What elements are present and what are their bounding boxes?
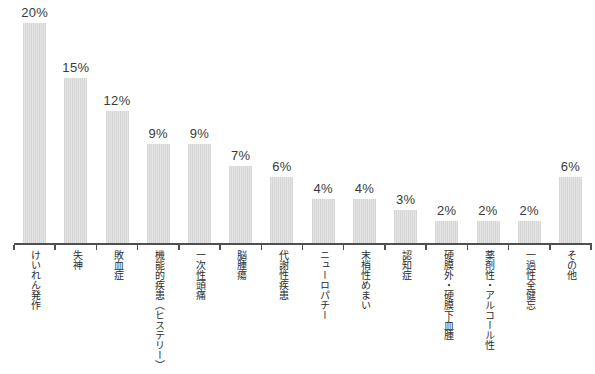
category-cell: 一次性頭痛 bbox=[179, 250, 220, 370]
category-label: その他 bbox=[565, 250, 576, 370]
category-cell: 失神 bbox=[55, 250, 96, 370]
bar-chart: 20%15%12%9%9%7%6%4%4%3%2%2%2%6% けいれん発作失神… bbox=[0, 0, 595, 374]
axis-tick bbox=[137, 245, 139, 250]
axis-tick bbox=[13, 245, 15, 250]
bar-value-label: 6% bbox=[561, 159, 580, 174]
bar bbox=[188, 144, 211, 243]
bar-cell: 3% bbox=[385, 0, 426, 243]
axis-tick bbox=[384, 245, 386, 250]
axis-tick bbox=[96, 245, 98, 250]
bar-value-label: 2% bbox=[520, 203, 539, 218]
bar-value-label: 15% bbox=[62, 60, 89, 75]
category-label: けいれん発作 bbox=[29, 250, 40, 370]
category-label: 脳腫瘍 bbox=[235, 250, 246, 370]
bar-cell: 20% bbox=[14, 0, 55, 243]
category-cell: 脳腫瘍 bbox=[220, 250, 261, 370]
bar-value-label: 7% bbox=[231, 148, 250, 163]
bar-cell: 6% bbox=[261, 0, 302, 243]
bar bbox=[229, 166, 252, 243]
category-label: 硬膜外・硬膜下血腫 bbox=[442, 250, 453, 370]
axis-tick bbox=[219, 245, 221, 250]
bar-value-label: 4% bbox=[313, 181, 332, 196]
category-cell: 認知症 bbox=[385, 250, 426, 370]
bar-value-label: 9% bbox=[190, 126, 209, 141]
bar bbox=[106, 111, 129, 243]
category-cell: 敗血症 bbox=[96, 250, 137, 370]
axis-tick bbox=[590, 245, 592, 250]
bar bbox=[518, 221, 541, 243]
bar bbox=[23, 23, 46, 243]
bar bbox=[353, 199, 376, 243]
category-cell: その他 bbox=[550, 250, 591, 370]
bar-cell: 9% bbox=[138, 0, 179, 243]
bar-cell: 7% bbox=[220, 0, 261, 243]
category-cell: けいれん発作 bbox=[14, 250, 55, 370]
category-cell: 代謝性疾患 bbox=[261, 250, 302, 370]
category-label: 末梢性めまい bbox=[359, 250, 370, 370]
bar bbox=[394, 210, 417, 243]
axis-tick bbox=[467, 245, 469, 250]
bar bbox=[477, 221, 500, 243]
category-cell: 硬膜外・硬膜下血腫 bbox=[426, 250, 467, 370]
plot-area: 20%15%12%9%9%7%6%4%4%3%2%2%2%6% bbox=[14, 0, 591, 243]
category-label: ニューロパチー bbox=[318, 250, 329, 370]
category-cell: 末梢性めまい bbox=[344, 250, 385, 370]
category-label: 一過性全健忘 bbox=[524, 250, 535, 370]
bar-value-label: 4% bbox=[355, 181, 374, 196]
category-label: 薬剤性・アルコール性 bbox=[483, 250, 494, 370]
bar-cell: 4% bbox=[344, 0, 385, 243]
bar-cell: 2% bbox=[426, 0, 467, 243]
category-cell: 機能的疾患（ヒステリー） bbox=[138, 250, 179, 370]
bar-cell: 15% bbox=[55, 0, 96, 243]
bar-value-label: 9% bbox=[149, 126, 168, 141]
axis-tick bbox=[343, 245, 345, 250]
category-cell: 薬剤性・アルコール性 bbox=[467, 250, 508, 370]
axis-tick bbox=[54, 245, 56, 250]
bar-cell: 6% bbox=[550, 0, 591, 243]
bar-cell: 4% bbox=[303, 0, 344, 243]
category-cell: ニューロパチー bbox=[303, 250, 344, 370]
category-label: 代謝性疾患 bbox=[277, 250, 288, 370]
bar-cell: 12% bbox=[96, 0, 137, 243]
axis-tick bbox=[425, 245, 427, 250]
category-label: 機能的疾患（ヒステリー） bbox=[153, 250, 164, 370]
axis-tick bbox=[261, 245, 263, 250]
bar bbox=[435, 221, 458, 243]
category-label: 一次性頭痛 bbox=[194, 250, 205, 370]
bar-cell: 9% bbox=[179, 0, 220, 243]
category-cell: 一過性全健忘 bbox=[509, 250, 550, 370]
category-label: 失神 bbox=[71, 250, 82, 370]
bar-value-label: 2% bbox=[478, 203, 497, 218]
bar bbox=[559, 177, 582, 243]
axis-tick bbox=[178, 245, 180, 250]
bar bbox=[64, 78, 87, 243]
axis-tick bbox=[508, 245, 510, 250]
bar-value-label: 2% bbox=[437, 203, 456, 218]
bar bbox=[270, 177, 293, 243]
axis-tick bbox=[302, 245, 304, 250]
bar-value-label: 6% bbox=[272, 159, 291, 174]
bar-value-label: 12% bbox=[104, 93, 131, 108]
bar-value-label: 3% bbox=[396, 192, 415, 207]
category-label: 認知症 bbox=[400, 250, 411, 370]
category-label: 敗血症 bbox=[112, 250, 123, 370]
bar bbox=[312, 199, 335, 243]
bar-value-label: 20% bbox=[21, 5, 48, 20]
bar-cell: 2% bbox=[509, 0, 550, 243]
bar bbox=[147, 144, 170, 243]
bar-cell: 2% bbox=[467, 0, 508, 243]
category-label-row: けいれん発作失神敗血症機能的疾患（ヒステリー）一次性頭痛脳腫瘍代謝性疾患ニューロ… bbox=[14, 250, 591, 370]
axis-tick bbox=[549, 245, 551, 250]
